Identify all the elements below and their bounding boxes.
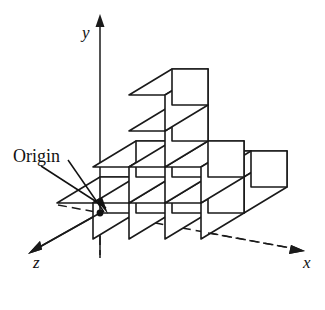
z-axis-label: z	[32, 253, 40, 272]
y-axis-label: y	[80, 23, 90, 42]
origin-point-marker	[97, 210, 104, 217]
y-axis-arrowhead	[96, 14, 105, 27]
cube-front-face-b-3-0-1	[251, 151, 287, 187]
origin-label: Origin	[13, 146, 60, 166]
isometric-cube-figure: Origin y x z	[0, 0, 325, 310]
x-axis-front-segment	[208, 233, 296, 249]
z-axis-front	[36, 213, 100, 249]
x-axis-label: x	[302, 253, 311, 272]
cube-stack	[57, 69, 287, 239]
cube-front-face-b-3-1-0	[208, 141, 244, 177]
cube-front-face-b-2-3-0	[172, 69, 208, 105]
